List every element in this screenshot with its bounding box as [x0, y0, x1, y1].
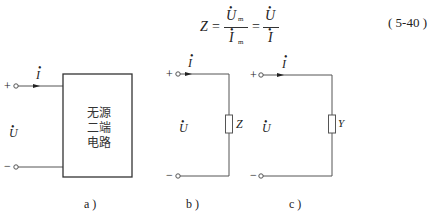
- fig-b-current: I: [188, 56, 192, 71]
- fig-b-voltage: U: [179, 121, 188, 136]
- fig-b-minus: −: [166, 168, 173, 183]
- fig-a-current: I: [36, 68, 40, 83]
- fig-b-plus: +: [166, 67, 173, 82]
- fig-a-caption: a ): [84, 197, 96, 212]
- circuit-diagrams: [0, 0, 444, 219]
- admittance-label: Y: [338, 117, 344, 129]
- fig-c-voltage: U: [262, 121, 271, 136]
- fig-b-caption: b ): [186, 197, 199, 212]
- impedance-label: Z: [236, 117, 243, 132]
- passive-two-terminal-network-label: 无源 二端 电路: [84, 106, 114, 151]
- fig-c-plus: +: [250, 68, 257, 83]
- fig-a-voltage: U: [9, 126, 18, 141]
- fig-c-minus: −: [250, 168, 257, 183]
- fig-a-minus: −: [4, 159, 11, 174]
- fig-c-current: I: [282, 57, 286, 72]
- fig-a-plus: +: [4, 79, 11, 94]
- fig-c-caption: c ): [289, 197, 301, 212]
